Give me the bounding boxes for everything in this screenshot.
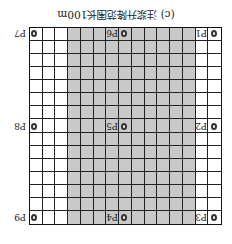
point-label-p4: P4 — [106, 212, 118, 222]
grid-line-vertical — [42, 28, 43, 224]
grid-line-horizontal — [30, 53, 221, 54]
circle-marker-icon — [122, 123, 128, 130]
point-label-p2: P2 — [195, 121, 207, 131]
point-p5 — [118, 120, 131, 133]
point-p2 — [208, 120, 221, 133]
grid-line-horizontal — [30, 40, 221, 41]
point-p7 — [28, 27, 41, 40]
circle-marker-icon — [122, 30, 128, 37]
point-label-p7: P7 — [14, 28, 26, 38]
point-label-p1: P1 — [195, 28, 207, 38]
circle-marker-icon — [122, 214, 128, 221]
grid-line-vertical — [67, 28, 68, 224]
point-label-p3: P3 — [195, 212, 207, 222]
circle-marker-icon — [212, 214, 218, 221]
circle-marker-icon — [32, 30, 38, 37]
point-label-p5: P5 — [106, 121, 118, 131]
grid-line-vertical — [144, 28, 145, 224]
point-label-p9: P9 — [14, 212, 26, 222]
grid-line-horizontal — [30, 197, 221, 198]
point-p1 — [208, 27, 221, 40]
point-label-p6: P6 — [106, 28, 118, 38]
grid-line-horizontal — [30, 66, 221, 67]
grid-line-horizontal — [30, 105, 221, 106]
point-p4 — [118, 211, 131, 224]
point-label-p8: P8 — [14, 121, 26, 131]
grid-line-vertical — [182, 28, 183, 224]
point-p6 — [118, 27, 131, 40]
circle-marker-icon — [32, 123, 38, 130]
grid-line-vertical — [54, 28, 55, 224]
grid-line-horizontal — [30, 92, 221, 93]
circle-marker-icon — [212, 123, 218, 130]
figure-caption: (c) 注浆升降范围长100m — [0, 8, 232, 23]
circle-marker-icon — [212, 30, 218, 37]
diagram-stage: P1 P2 P3 P4 P5 P6 P7 P8 P9 (c) 注浆升降范围长10… — [0, 0, 232, 244]
grid-line-horizontal — [30, 158, 221, 159]
grid-line-horizontal — [30, 79, 221, 80]
grid-line-vertical — [131, 28, 132, 224]
grid-line-vertical — [80, 28, 81, 224]
measurement-grid: P1 P2 P3 P4 P5 P6 P7 P8 P9 — [29, 27, 222, 225]
circle-marker-icon — [32, 214, 38, 221]
grid-line-horizontal — [30, 145, 221, 146]
grid-line-vertical — [93, 28, 94, 224]
grid-line-horizontal — [30, 171, 221, 172]
point-p8 — [28, 120, 41, 133]
grid-line-vertical — [169, 28, 170, 224]
point-p3 — [208, 211, 221, 224]
point-p9 — [28, 211, 41, 224]
grid-line-vertical — [156, 28, 157, 224]
grid-line-horizontal — [30, 184, 221, 185]
